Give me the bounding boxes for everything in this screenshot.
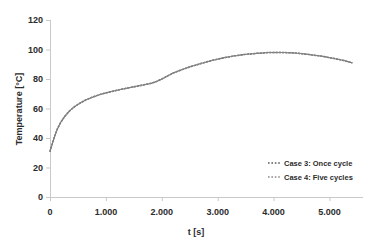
- x-axis-title: t [s]: [188, 227, 205, 237]
- svg-text:Temperature [°C]: Temperature [°C]: [14, 73, 24, 145]
- y-tick-label: 80: [33, 74, 43, 84]
- svg-text:t [s]: t [s]: [188, 227, 205, 237]
- x-tick-label: 3.000: [206, 207, 229, 217]
- x-tick-label: 5.000: [318, 207, 341, 217]
- legend-label-2: Case 4: Five cycles: [284, 173, 353, 182]
- x-tick-label: 0: [47, 207, 52, 217]
- x-axis-ticks: 01.0002.0003.0004.0005.000: [47, 197, 340, 217]
- plot-background: [50, 20, 363, 197]
- legend-label-1: Case 3: Once cycle: [284, 159, 352, 168]
- x-tick-label: 4.000: [262, 207, 285, 217]
- y-tick-label: 40: [33, 133, 43, 143]
- chart-canvas: 020406080100120 01.0002.0003.0004.0005.0…: [0, 0, 365, 250]
- y-axis-ticks: 020406080100120: [28, 15, 50, 202]
- y-tick-label: 120: [28, 15, 43, 25]
- y-axis-title: Temperature [°C]: [14, 73, 24, 145]
- temperature-vs-time-chart: 020406080100120 01.0002.0003.0004.0005.0…: [0, 0, 365, 250]
- y-tick-label: 60: [33, 104, 43, 114]
- y-tick-label: 100: [28, 45, 43, 55]
- x-tick-label: 1.000: [95, 207, 118, 217]
- y-tick-label: 0: [38, 192, 43, 202]
- x-tick-label: 2.000: [151, 207, 174, 217]
- y-tick-label: 20: [33, 163, 43, 173]
